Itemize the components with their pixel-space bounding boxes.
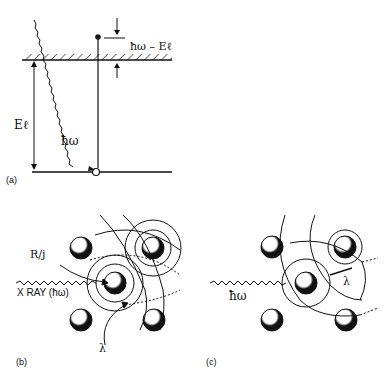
caption-a: (a)	[6, 175, 17, 185]
photoelectron	[95, 34, 101, 40]
label-photon-energy: ħω	[61, 134, 79, 148]
panel-c	[210, 215, 378, 331]
caption-b: (b)	[16, 357, 27, 367]
caption-c: (c)	[206, 357, 217, 367]
diagram-canvas	[0, 0, 391, 377]
panel-b	[16, 215, 181, 345]
label-photon-c: ħω	[229, 289, 247, 303]
label-wavelength-c: λ	[343, 275, 350, 288]
label-binding-energy: Eℓ	[14, 118, 29, 133]
label-wavelength-b: λ	[99, 342, 106, 355]
label-xray: X RAY (ħω)	[17, 287, 69, 298]
label-radius: R/j	[30, 248, 45, 261]
label-kinetic-energy: ħω – Eℓ	[130, 40, 172, 53]
